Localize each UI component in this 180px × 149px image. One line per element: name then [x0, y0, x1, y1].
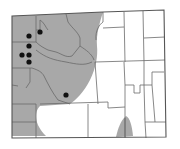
county-line [144, 85, 155, 122]
county-line [103, 27, 124, 28]
county-line [108, 85, 125, 108]
record-dot [26, 33, 31, 38]
county-line [124, 62, 144, 93]
record-dot [26, 43, 31, 48]
record-dot [26, 59, 31, 64]
western-range [12, 12, 103, 136]
county-line [124, 12, 125, 62]
county-line [152, 72, 164, 85]
south-central-range [116, 116, 133, 137]
county-line [95, 60, 165, 62]
record-dot [63, 92, 68, 97]
record-dot [19, 52, 24, 57]
county-line [95, 62, 98, 104]
county-line [143, 11, 144, 62]
wyoming-map-svg [0, 0, 180, 149]
record-dot [26, 52, 31, 57]
county-line [144, 37, 165, 38]
county-line [145, 122, 146, 138]
county-line [144, 85, 166, 122]
record-dot [37, 29, 42, 34]
